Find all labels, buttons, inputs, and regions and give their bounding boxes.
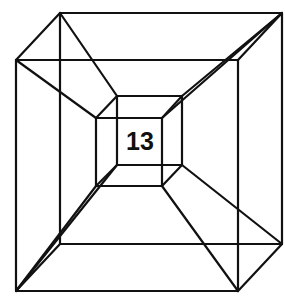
connector-edge bbox=[60, 13, 117, 96]
figure-number-label: 13 bbox=[126, 127, 154, 155]
connector-edge bbox=[16, 60, 96, 118]
nested-cube-diagram: 13 bbox=[0, 0, 285, 298]
connector-edge bbox=[96, 96, 117, 118]
connector-edge bbox=[162, 13, 282, 118]
connector-edge bbox=[182, 165, 282, 244]
connector-edge bbox=[16, 13, 60, 60]
connector-edge bbox=[16, 186, 96, 291]
connector-edge bbox=[162, 165, 182, 186]
connector-edge bbox=[162, 186, 238, 291]
connector-edge bbox=[238, 244, 282, 291]
